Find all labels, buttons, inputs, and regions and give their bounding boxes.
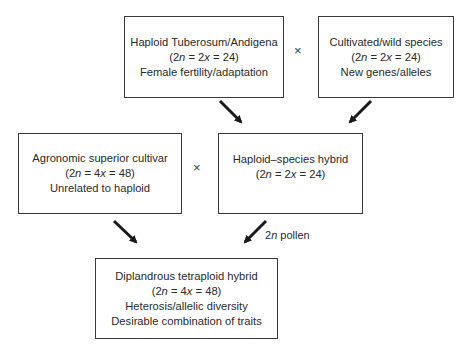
arrows-layer bbox=[0, 0, 471, 351]
arrow-haploid-to-hybrid bbox=[220, 101, 241, 122]
arrow-hybrid-to-tetraploid bbox=[245, 221, 266, 242]
arrow-cultivar-to-tetraploid bbox=[114, 221, 136, 242]
arrow-species-to-hybrid bbox=[350, 101, 371, 122]
